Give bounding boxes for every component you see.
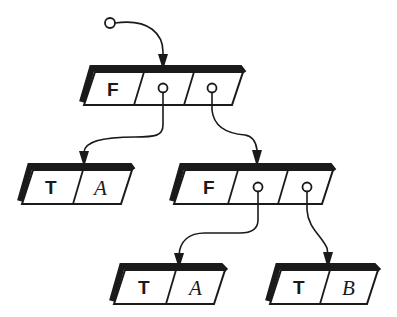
node-tag: F — [107, 79, 119, 100]
node-left-leaf: T A — [20, 166, 133, 204]
node-right-inner: F — [172, 166, 334, 204]
tree-diagram: F T A F T A — [0, 0, 397, 317]
node-tag: F — [203, 177, 215, 198]
node-value: A — [187, 276, 202, 300]
node-value: B — [342, 276, 355, 300]
root-edge — [115, 22, 163, 56]
node-value: A — [92, 176, 107, 200]
node-outline — [114, 270, 225, 304]
node-tag: T — [293, 277, 305, 298]
root-pointer — [105, 18, 168, 70]
node-outline — [270, 270, 378, 304]
node-tag: T — [138, 277, 150, 298]
pointer-circle-icon — [105, 18, 115, 28]
pointer-circle-icon — [303, 183, 312, 192]
pointer-circle-icon — [159, 84, 168, 93]
node-tag: T — [45, 177, 57, 198]
node-bottom-right-leaf: T B — [268, 266, 379, 304]
node-bottom-left-leaf: T A — [112, 266, 226, 304]
pointer-circle-icon — [208, 84, 217, 93]
pointer-circle-icon — [254, 183, 263, 192]
node-outline — [22, 170, 132, 204]
